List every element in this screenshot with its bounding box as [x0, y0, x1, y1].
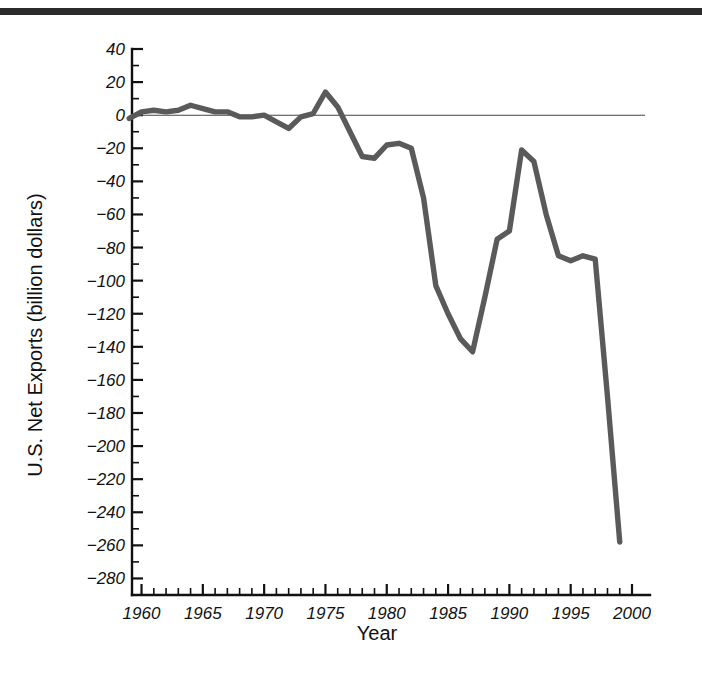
- y-tick-label: −20: [96, 139, 125, 158]
- x-tick-label: 1985: [429, 604, 467, 623]
- y-tick-label: −40: [96, 172, 125, 191]
- y-axis-title: U.S. Net Exports (billion dollars): [24, 193, 46, 476]
- x-tick-label: 1990: [490, 604, 528, 623]
- y-tick-label: −260: [87, 536, 126, 555]
- y-tick-label: 20: [105, 73, 125, 92]
- y-tick-label: −140: [87, 338, 126, 357]
- x-tick-label: 1965: [184, 604, 222, 623]
- x-tick-label: 1960: [123, 604, 161, 623]
- y-tick-label: −200: [87, 437, 126, 456]
- y-tick-label: −280: [87, 569, 126, 588]
- figure-page: 40200−20−40−60−80−100−120−140−160−180−20…: [0, 0, 702, 684]
- x-tick-label: 2000: [612, 604, 651, 623]
- x-tick-label: 1980: [368, 604, 406, 623]
- y-tick-label: −160: [87, 371, 126, 390]
- y-tick-label: −180: [87, 404, 126, 423]
- data-series-group: [129, 92, 619, 542]
- y-tick-label: −100: [87, 272, 126, 291]
- y-tick-label: −120: [87, 305, 126, 324]
- x-tick-label: 1975: [307, 604, 345, 623]
- y-tick-label: −60: [96, 205, 125, 224]
- net-exports-line-chart: 40200−20−40−60−80−100−120−140−160−180−20…: [0, 15, 702, 665]
- y-tick-label: −80: [96, 239, 125, 258]
- y-tick-label: 0: [116, 106, 126, 125]
- x-tick-label: 1970: [245, 604, 283, 623]
- y-tick-label: −240: [87, 503, 126, 522]
- chart-figure: 40200−20−40−60−80−100−120−140−160−180−20…: [0, 15, 702, 665]
- data-series-line-0: [129, 92, 619, 542]
- x-tick-label: 1995: [552, 604, 590, 623]
- y-tick-label: 40: [106, 40, 125, 59]
- axes-group: [132, 49, 650, 595]
- y-tick-label: −220: [87, 470, 126, 489]
- top-rule-divider: [0, 8, 702, 15]
- tick-labels-group: 40200−20−40−60−80−100−120−140−160−180−20…: [87, 40, 652, 623]
- x-axis-title: Year: [357, 622, 398, 644]
